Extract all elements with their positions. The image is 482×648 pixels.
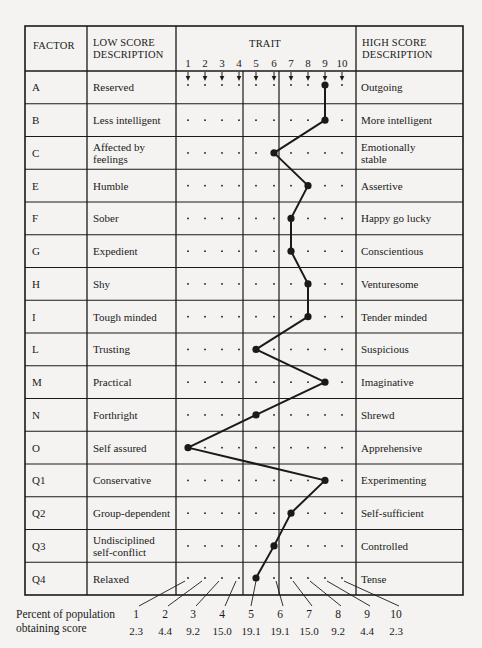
high-score-description: Imaginative: [361, 376, 414, 388]
scale-dot: [324, 447, 326, 449]
population-score: 7: [306, 608, 312, 620]
scale-number: 7: [288, 57, 294, 69]
score-marker: [270, 542, 277, 549]
scale-dot: [255, 316, 257, 318]
score-marker: [287, 215, 294, 222]
profile-line: [184, 81, 328, 581]
scale-dot: [238, 152, 240, 154]
population-percent: 15.0: [212, 625, 232, 637]
scale-dot: [204, 217, 206, 219]
scale-dot: [238, 381, 240, 383]
scale-dot: [341, 250, 343, 252]
population-percent: 19.1: [241, 625, 260, 637]
scale-dot: [307, 381, 309, 383]
factor-label: H: [32, 278, 40, 290]
population-percent: 15.0: [299, 625, 319, 637]
scale-dot: [273, 119, 275, 121]
scale-dot: [187, 512, 189, 514]
scale-dot: [221, 447, 223, 449]
scale-dot: [187, 414, 189, 416]
score-marker: [321, 117, 328, 124]
scale-dot: [221, 414, 223, 416]
low-score-description: Trusting: [93, 343, 130, 355]
scale-dot: [290, 283, 292, 285]
scale-dot: [204, 545, 206, 547]
low-score-description: Humble: [93, 180, 129, 192]
arrow-down-icon: [254, 76, 259, 81]
scale-dot: [221, 545, 223, 547]
scale-dot: [187, 217, 189, 219]
population-score: 2: [162, 608, 168, 620]
scale-dot: [273, 348, 275, 350]
scale-dot: [273, 381, 275, 383]
personality-profile-chart: FACTORLOW SCOREDESCRIPTIONTRAITHIGH SCOR…: [0, 0, 482, 648]
scale-dot: [324, 414, 326, 416]
header-factor: FACTOR: [33, 40, 75, 51]
low-score-description: Shy: [93, 278, 111, 290]
scale-dot: [307, 217, 309, 219]
factor-label: C: [32, 147, 39, 159]
leader-line: [139, 581, 185, 606]
scale-dot: [238, 250, 240, 252]
header-low-description: DESCRIPTION: [93, 49, 164, 60]
scale-number: 5: [253, 57, 259, 69]
scale-dot: [238, 316, 240, 318]
low-score-description: Undisciplined: [93, 534, 155, 546]
scale-dot: [307, 545, 309, 547]
scale-dot: [273, 217, 275, 219]
scale-dot: [187, 545, 189, 547]
leader-line: [225, 581, 236, 606]
high-score-description: Emotionally: [361, 141, 416, 153]
scale-dot: [341, 185, 343, 187]
population-percent: 4.4: [360, 625, 374, 637]
population-score: 1: [133, 608, 139, 620]
scale-dot: [255, 119, 257, 121]
population-percent: 9.2: [331, 625, 345, 637]
scale-dot: [255, 152, 257, 154]
scale-dot: [187, 119, 189, 121]
scale-dot: [204, 479, 206, 481]
factor-label: B: [32, 114, 39, 126]
population-percent: 2.3: [129, 625, 143, 637]
low-score-description: Affected by: [93, 141, 146, 153]
scale-dot: [255, 283, 257, 285]
table-header: FACTORLOW SCOREDESCRIPTIONTRAITHIGH SCOR…: [33, 37, 433, 81]
scale-dot: [324, 316, 326, 318]
high-score-description: Tense: [361, 573, 387, 585]
scale-dot: [324, 283, 326, 285]
leader-line: [251, 581, 256, 606]
high-score-description: Experimenting: [361, 474, 427, 486]
scale-dot: [273, 577, 275, 579]
scale-dot: [273, 479, 275, 481]
scale-dot: [341, 152, 343, 154]
scale-dot: [307, 479, 309, 481]
scale-dot: [324, 348, 326, 350]
scale-dot: [255, 545, 257, 547]
high-score-description: Venturesome: [361, 278, 419, 290]
leader-line: [327, 581, 370, 606]
scale-dot: [307, 512, 309, 514]
scale-dot: [341, 348, 343, 350]
scale-dot: [204, 414, 206, 416]
scale-dot: [221, 217, 223, 219]
scale-dot: [221, 119, 223, 121]
scale-dot: [341, 217, 343, 219]
scale-dot: [341, 545, 343, 547]
scale-dot: [187, 577, 189, 579]
population-score: 3: [190, 608, 196, 620]
low-score-description: self-conflict: [93, 546, 146, 558]
population-leader-lines: [139, 581, 399, 606]
header-low-score: LOW SCORE: [93, 37, 155, 48]
population-score: 8: [335, 608, 341, 620]
scale-dot: [255, 381, 257, 383]
scale-dot: [307, 84, 309, 86]
population-score: 6: [277, 608, 283, 620]
profile-polyline: [188, 85, 325, 578]
scale-dot: [238, 283, 240, 285]
scale-dot: [187, 316, 189, 318]
scale-dot: [290, 447, 292, 449]
population-scale: Percent of populationobtaining score12.3…: [16, 608, 403, 637]
header-trait: TRAIT: [249, 38, 281, 49]
scale-dot: [204, 185, 206, 187]
low-score-description: Self assured: [93, 442, 147, 454]
